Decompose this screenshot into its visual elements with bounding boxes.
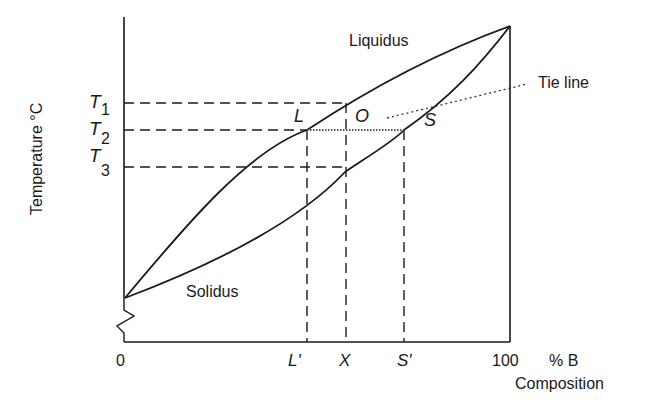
t1-label: T 1 [89, 91, 110, 118]
point-o-label: O [355, 106, 369, 126]
svg-text:3: 3 [101, 162, 110, 179]
s-prime-label: S' [397, 351, 412, 370]
point-l-label: L [294, 106, 304, 126]
phase-diagram: Temperature °C T 1 T 2 T 3 Liquidus Soli… [0, 0, 651, 412]
axis-break-icon [117, 298, 134, 342]
x-tick-0: 0 [116, 352, 125, 369]
solidus-curve [125, 26, 510, 298]
x-tick-100: 100 [492, 352, 519, 369]
liquidus-curve [125, 26, 510, 298]
l-prime-label: L' [288, 351, 301, 370]
x-unit-label: % B [549, 352, 578, 369]
liquidus-label: Liquidus [349, 32, 409, 49]
y-axis-label: Temperature °C [28, 103, 45, 215]
svg-text:2: 2 [101, 130, 110, 147]
solidus-label: Solidus [186, 283, 238, 300]
t3-label: T 3 [89, 145, 110, 179]
x-label: X [338, 351, 351, 370]
point-s-label: S [424, 110, 436, 130]
tie-line-pointer [387, 84, 527, 118]
tie-line-label: Tie line [538, 74, 589, 91]
svg-text:1: 1 [101, 101, 110, 118]
t2-label: T 2 [89, 118, 110, 147]
x-axis-label: Composition [515, 375, 604, 392]
